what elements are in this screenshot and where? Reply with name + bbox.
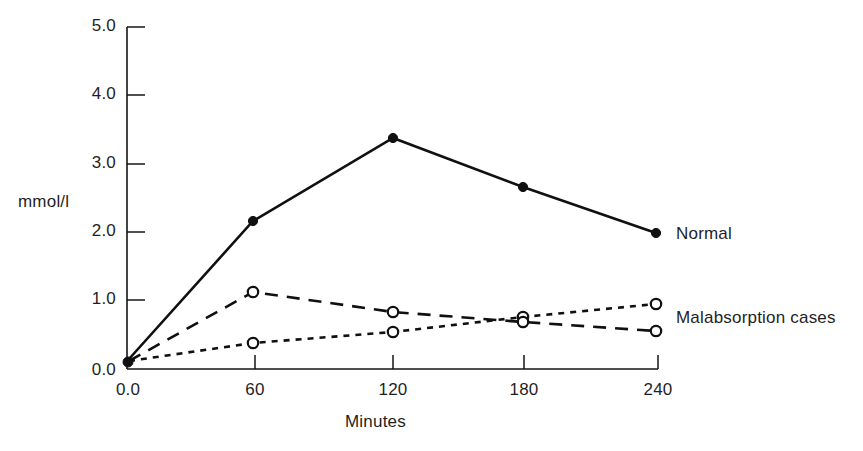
x-tick-label-120: 120 <box>363 380 423 400</box>
y-tick-label-0: 0.0 <box>64 360 116 380</box>
series-label-malabsorption: Malabsorption cases <box>676 308 836 328</box>
x-tick-marks <box>255 355 658 369</box>
series-label-normal: Normal <box>676 224 732 244</box>
y-tick-label-2: 2.0 <box>64 221 116 241</box>
y-tick-label-1: 1.0 <box>64 289 116 309</box>
x-axis-title: Minutes <box>345 412 406 432</box>
y-tick-marks <box>127 27 145 300</box>
x-tick-label-240: 240 <box>628 380 688 400</box>
y-axis-title: mmol/l <box>18 192 69 212</box>
series-markers-normal <box>248 133 660 237</box>
y-tick-label-3: 3.0 <box>64 153 116 173</box>
x-tick-label-180: 180 <box>494 380 554 400</box>
chart-figure: 5.0 4.0 3.0 2.0 1.0 0.0 0.0 60 120 180 2… <box>0 0 863 451</box>
origin-marker <box>123 357 133 367</box>
series-markers-malabsorption-short-dash <box>248 299 661 348</box>
y-tick-label-4: 4.0 <box>64 84 116 104</box>
x-tick-label-0: 0.0 <box>98 380 158 400</box>
y-tick-label-5: 5.0 <box>64 16 116 36</box>
series-markers-malabsorption-long-dash <box>248 287 661 336</box>
x-tick-label-60: 60 <box>225 380 285 400</box>
